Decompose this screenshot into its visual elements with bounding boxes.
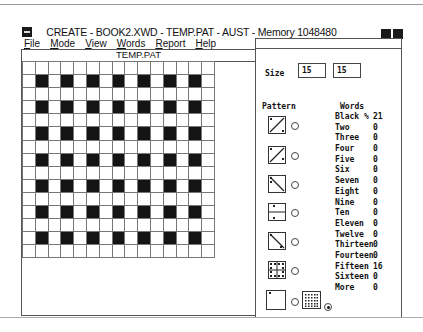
grid-cell-white[interactable] (74, 193, 87, 206)
grid-cell-white[interactable] (49, 245, 62, 258)
grid-cell-white[interactable] (189, 193, 202, 206)
grid-cell-white[interactable] (49, 88, 62, 101)
grid-cell-white[interactable] (100, 219, 113, 232)
grid-cell-white[interactable] (177, 193, 190, 206)
pattern-diagonal-falling-alt-icon[interactable] (268, 232, 286, 250)
grid-cell-white[interactable] (100, 167, 113, 180)
grid-cell-white[interactable] (189, 88, 202, 101)
grid-cell-white[interactable] (100, 101, 113, 114)
grid-cell-white[interactable] (125, 127, 138, 140)
grid-cell-white[interactable] (49, 219, 62, 232)
grid-cell-white[interactable] (49, 62, 62, 75)
grid-cell-white[interactable] (202, 154, 215, 167)
grid-cell-white[interactable] (125, 245, 138, 258)
grid-cell-white[interactable] (87, 193, 100, 206)
grid-cell-black[interactable] (164, 127, 177, 140)
grid-cell-black[interactable] (87, 154, 100, 167)
grid-cell-black[interactable] (36, 232, 49, 245)
grid-cell-white[interactable] (189, 219, 202, 232)
grid-cell-white[interactable] (151, 167, 164, 180)
grid-cell-black[interactable] (36, 180, 49, 193)
grid-cell-black[interactable] (164, 75, 177, 88)
grid-cell-black[interactable] (87, 75, 100, 88)
grid-cell-black[interactable] (113, 232, 126, 245)
grid-cell-black[interactable] (189, 154, 202, 167)
grid-cell-white[interactable] (177, 141, 190, 154)
grid-cell-white[interactable] (113, 167, 126, 180)
grid-cell-white[interactable] (202, 88, 215, 101)
grid-cell-white[interactable] (138, 88, 151, 101)
grid-cell-white[interactable] (202, 62, 215, 75)
grid-cell-white[interactable] (74, 101, 87, 114)
grid-cell-white[interactable] (49, 101, 62, 114)
grid-cell-black[interactable] (61, 232, 74, 245)
grid-cell-white[interactable] (177, 245, 190, 258)
pattern-radio-6[interactable] (291, 267, 299, 275)
grid-cell-white[interactable] (138, 141, 151, 154)
grid-cell-white[interactable] (125, 141, 138, 154)
grid-cell-white[interactable] (87, 167, 100, 180)
grid-cell-white[interactable] (23, 219, 36, 232)
grid-cell-white[interactable] (177, 167, 190, 180)
grid-cell-white[interactable] (125, 219, 138, 232)
grid-cell-white[interactable] (164, 62, 177, 75)
pattern-diagonal-rising-alt-icon[interactable] (268, 146, 286, 164)
grid-cell-black[interactable] (164, 101, 177, 114)
grid-cell-white[interactable] (151, 193, 164, 206)
grid-cell-white[interactable] (23, 127, 36, 140)
grid-cell-white[interactable] (202, 114, 215, 127)
grid-cell-white[interactable] (49, 154, 62, 167)
grid-cell-white[interactable] (36, 88, 49, 101)
grid-cell-black[interactable] (61, 154, 74, 167)
grid-cell-white[interactable] (125, 193, 138, 206)
grid-cell-black[interactable] (61, 180, 74, 193)
grid-cell-white[interactable] (125, 88, 138, 101)
grid-cell-white[interactable] (87, 114, 100, 127)
grid-cell-white[interactable] (125, 180, 138, 193)
grid-cell-white[interactable] (100, 75, 113, 88)
pattern-diagonal-falling-icon[interactable] (268, 175, 286, 193)
grid-cell-white[interactable] (151, 114, 164, 127)
grid-cell-white[interactable] (23, 180, 36, 193)
grid-cell-white[interactable] (164, 114, 177, 127)
pattern-radio-7[interactable] (291, 298, 299, 306)
grid-cell-black[interactable] (87, 180, 100, 193)
grid-cell-white[interactable] (189, 167, 202, 180)
pattern-radio-5[interactable] (291, 238, 299, 246)
grid-cell-white[interactable] (202, 75, 215, 88)
grid-cell-white[interactable] (87, 141, 100, 154)
grid-cell-white[interactable] (49, 180, 62, 193)
grid-cell-white[interactable] (49, 141, 62, 154)
grid-cell-black[interactable] (113, 180, 126, 193)
grid-cell-black[interactable] (138, 206, 151, 219)
grid-cell-white[interactable] (151, 62, 164, 75)
grid-cell-white[interactable] (87, 62, 100, 75)
grid-cell-white[interactable] (36, 141, 49, 154)
grid-cell-black[interactable] (189, 180, 202, 193)
grid-cell-white[interactable] (49, 127, 62, 140)
grid-cell-white[interactable] (74, 141, 87, 154)
grid-cell-white[interactable] (100, 88, 113, 101)
grid-cell-black[interactable] (61, 206, 74, 219)
grid-cell-black[interactable] (61, 75, 74, 88)
grid-cell-black[interactable] (87, 206, 100, 219)
grid-cell-white[interactable] (125, 206, 138, 219)
grid-cell-black[interactable] (138, 154, 151, 167)
grid-cell-white[interactable] (113, 88, 126, 101)
pattern-radio-2[interactable] (291, 152, 299, 160)
grid-cell-black[interactable] (189, 101, 202, 114)
grid-cell-white[interactable] (113, 193, 126, 206)
grid-cell-white[interactable] (23, 154, 36, 167)
grid-cell-white[interactable] (202, 127, 215, 140)
grid-cell-white[interactable] (100, 206, 113, 219)
grid-cell-white[interactable] (74, 219, 87, 232)
grid-cell-black[interactable] (87, 127, 100, 140)
grid-cell-white[interactable] (49, 167, 62, 180)
grid-cell-white[interactable] (49, 193, 62, 206)
grid-cell-white[interactable] (23, 193, 36, 206)
grid-cell-white[interactable] (202, 101, 215, 114)
grid-cell-white[interactable] (202, 245, 215, 258)
grid-cell-black[interactable] (138, 232, 151, 245)
grid-cell-black[interactable] (113, 206, 126, 219)
grid-cell-black[interactable] (138, 127, 151, 140)
